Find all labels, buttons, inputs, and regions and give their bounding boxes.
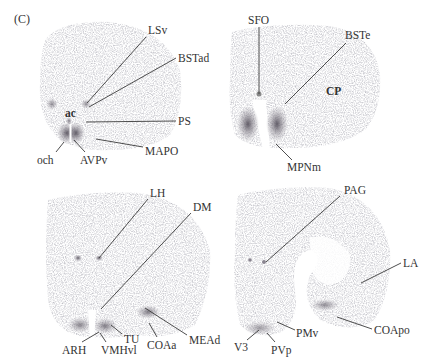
structure-label-och: och bbox=[37, 154, 54, 166]
structure-label-pvp: PVp bbox=[271, 344, 291, 356]
section-bottom-right bbox=[234, 187, 390, 335]
leader-line-och bbox=[56, 142, 64, 152]
structure-label-ac: ac bbox=[65, 107, 76, 119]
structure-label-pmv: PMv bbox=[296, 327, 318, 339]
structure-label-mapo: MAPO bbox=[145, 145, 178, 157]
structure-label-cp: CP bbox=[326, 85, 341, 97]
structure-label-mpnm: MPNm bbox=[287, 161, 321, 173]
structure-label-lsv: LSv bbox=[148, 24, 167, 36]
structure-label-coapo: COApo bbox=[374, 324, 410, 336]
section-bottom-left bbox=[46, 192, 210, 340]
structure-label-ps: PS bbox=[178, 115, 191, 127]
structure-label-lh: LH bbox=[150, 187, 165, 199]
structure-label-coaa: COAa bbox=[147, 339, 176, 351]
structure-label-mead: MEAd bbox=[189, 334, 220, 346]
structure-label-la: LA bbox=[403, 257, 418, 269]
structure-label-sfo: SFO bbox=[248, 14, 269, 26]
structure-label-vmhvl: VMHvl bbox=[101, 344, 137, 356]
structure-label-v3: V3 bbox=[234, 341, 248, 353]
brain-section-figure: (C) LSvBSTadacPSMAPOochAVPvSFOBSTeCPMPNm… bbox=[0, 0, 437, 364]
panel-label: (C) bbox=[14, 12, 30, 27]
structure-label-pag: PAG bbox=[344, 184, 366, 196]
structure-label-avpv: AVPv bbox=[80, 154, 107, 166]
structure-label-arh: ARH bbox=[62, 344, 86, 356]
structure-label-dm: DM bbox=[193, 201, 212, 213]
structure-label-bste: BSTe bbox=[345, 29, 370, 41]
section-top-right bbox=[230, 25, 381, 150]
structure-label-bstad: BSTad bbox=[178, 52, 209, 64]
brain-sections-graphic bbox=[0, 0, 437, 364]
section-top-left bbox=[40, 22, 181, 150]
